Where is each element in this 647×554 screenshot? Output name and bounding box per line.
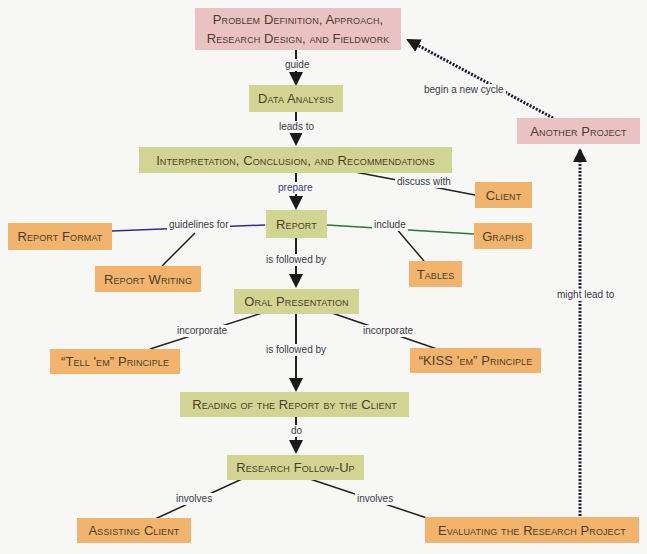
concept-map: Problem Definition, Approach, Research D… xyxy=(0,0,647,554)
label-involves-left: involves xyxy=(174,493,214,505)
label-incorporate-right: incorporate xyxy=(361,325,415,337)
label-is-followed-by-2: is followed by xyxy=(264,344,328,356)
label-guide: guide xyxy=(283,59,311,71)
label-is-followed-by-1: is followed by xyxy=(264,254,328,266)
node-report-writing: Report Writing xyxy=(95,266,201,292)
label-prepare: prepare xyxy=(276,182,314,194)
node-kiss-em-principle: “KISS 'em” Principle xyxy=(410,348,541,373)
node-assisting-client: Assisting Client xyxy=(77,518,191,543)
label-involves-right: involves xyxy=(355,493,395,505)
line-guidelines-for-writing xyxy=(162,233,195,266)
node-client: Client xyxy=(475,182,532,208)
node-oral-presentation: Oral Presentation xyxy=(234,289,359,314)
node-problem-definition: Problem Definition, Approach, Research D… xyxy=(195,8,401,50)
node-research-follow-up: Research Follow-Up xyxy=(227,455,364,480)
label-incorporate-left: incorporate xyxy=(175,325,229,337)
label-do: do xyxy=(289,425,304,437)
node-tables: Tables xyxy=(409,261,462,287)
label-might-lead-to: might lead to xyxy=(555,289,616,301)
line-include-tables xyxy=(395,227,424,261)
node-evaluating-project: Evaluating the Research Project xyxy=(425,517,639,543)
label-include: include xyxy=(372,219,408,231)
label-discuss-with: discuss with xyxy=(395,176,453,188)
node-another-project: Another Project xyxy=(517,118,640,144)
node-tell-em-principle: “Tell 'em” Principle xyxy=(50,349,180,374)
node-report: Report xyxy=(266,210,327,238)
node-reading-of-report: Reading of the Report by the Client xyxy=(180,392,409,417)
label-guidelines-for: guidelines for xyxy=(167,219,230,231)
node-report-format: Report Format xyxy=(8,223,112,250)
label-begin-new-cycle: begin a new cycle xyxy=(422,84,506,96)
node-data-analysis: Data Analysis xyxy=(249,85,343,112)
label-leads-to: leads to xyxy=(277,121,316,133)
node-interpretation: Interpretation, Conclusion, and Recommen… xyxy=(139,147,452,173)
node-graphs: Graphs xyxy=(474,223,532,249)
arrow-begin-new-cycle xyxy=(408,40,553,118)
